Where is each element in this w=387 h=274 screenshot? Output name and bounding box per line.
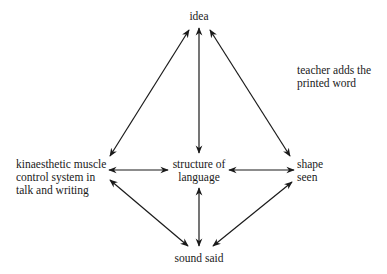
node-kinaesthetic-line-1: kinaesthetic muscle <box>16 158 106 171</box>
annotation-line-1: teacher adds the <box>297 64 371 77</box>
node-kinaesthetic-line-2: control system in <box>16 171 106 184</box>
diagram-canvas: idea teacher adds the printed word kinae… <box>0 0 387 274</box>
edge-shape-sound <box>213 182 292 246</box>
node-idea-label: idea <box>189 10 208 22</box>
annotation-teacher: teacher adds the printed word <box>297 64 371 90</box>
diagram-edges <box>0 0 387 274</box>
node-shape: shape seen <box>297 158 323 184</box>
node-idea: idea <box>179 10 219 23</box>
edge-idea-shape <box>210 30 290 156</box>
node-shape-line-1: shape <box>297 158 323 171</box>
node-sound-label: sound said <box>175 252 224 264</box>
node-shape-line-2: seen <box>297 171 323 184</box>
edge-kinaesthetic-sound <box>110 180 188 246</box>
node-structure-line-2: language <box>166 171 232 184</box>
node-kinaesthetic: kinaesthetic muscle control system in ta… <box>16 158 106 197</box>
annotation-line-2: printed word <box>297 77 371 90</box>
node-sound: sound said <box>164 252 234 265</box>
edge-idea-kinaesthetic <box>110 30 189 156</box>
node-kinaesthetic-line-3: talk and writing <box>16 184 106 197</box>
node-structure-line-1: structure of <box>166 158 232 171</box>
node-structure: structure of language <box>166 158 232 184</box>
